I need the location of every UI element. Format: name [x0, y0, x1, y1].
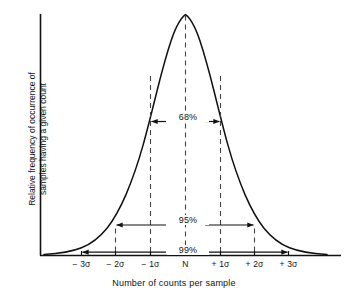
x-tick-label-mean: N [166, 259, 206, 269]
annotation-label-95-percent: 95% [167, 215, 209, 225]
annotation-label-99-percent: 99% [167, 245, 209, 255]
annotation-label-68-percent: 68% [167, 112, 209, 122]
plot-canvas [0, 0, 348, 302]
gaussian-distribution-figure: Relative frequency of occurrence of samp… [0, 0, 348, 302]
y-axis-label-line-2: samples having a given count [38, 24, 49, 254]
x-axis-label: Number of counts per sample [0, 278, 348, 288]
x-tick-label-minus-1-sigma: − 1σ [131, 259, 171, 269]
y-axis-label-line-1: Relative frequency of occurrence of [27, 24, 38, 254]
x-tick-label-minus-2-sigma: − 2σ [96, 259, 136, 269]
x-tick-label-plus-3-sigma: + 3σ [269, 259, 309, 269]
y-axis-label: Relative frequency of occurrence of samp… [27, 24, 49, 254]
